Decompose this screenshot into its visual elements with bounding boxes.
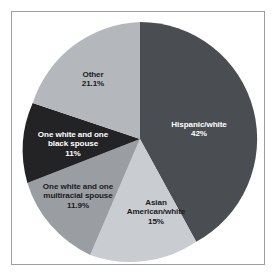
slice-label-asian-american-white-value: 15% [113,217,199,226]
slice-label-other-text: Other [58,70,128,79]
slice-label-one-white-one-black-spouse: One white and one black spouse 11% [18,130,128,158]
slice-label-black-spouse-text-line2: black spouse [18,139,128,148]
pie-chart-figure: Hispanic/white 42% Asian American/white … [0,0,280,277]
slice-label-multiracial-text-line1: One white and one [24,182,132,191]
slice-label-other-value: 21.1% [58,79,128,88]
slice-label-one-white-one-multiracial-spouse: One white and one multiracial spouse 11.… [24,182,132,210]
slice-label-black-spouse-value: 11% [18,149,128,158]
slice-label-black-spouse-text-line1: One white and one [18,130,128,139]
slice-label-hispanic-white-value: 42% [156,129,242,138]
slice-label-hispanic-white-text: Hispanic/white [156,120,242,129]
slice-label-hispanic-white: Hispanic/white 42% [156,120,242,139]
slice-label-multiracial-text-line2: multiracial spouse [24,191,132,200]
slice-label-other: Other 21.1% [58,70,128,89]
slice-label-multiracial-value: 11.9% [24,201,132,210]
